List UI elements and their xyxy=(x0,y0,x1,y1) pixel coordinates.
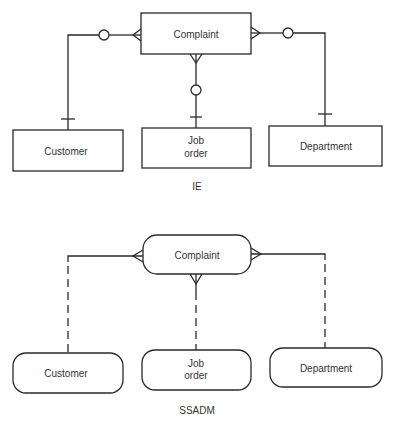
ssadm-department-label: Department xyxy=(300,363,352,374)
ssadm-relationship-joborder-complaint xyxy=(190,274,202,350)
ie-job-order-label-line1: Job xyxy=(188,135,205,146)
ie-caption: IE xyxy=(192,181,202,192)
ie-relationship-joborder-complaint xyxy=(190,54,202,128)
ssadm-entity-customer: Customer xyxy=(13,353,123,393)
ssadm-complaint-label: Complaint xyxy=(174,250,219,261)
optional-circle-icon xyxy=(99,30,109,40)
optional-circle-icon xyxy=(191,85,201,95)
ssadm-customer-label: Customer xyxy=(44,368,88,379)
ie-department-label: Department xyxy=(300,141,352,152)
ssadm-relationship-customer-complaint xyxy=(68,250,143,353)
ssadm-diagram: Complaint Customer Job or xyxy=(13,235,382,416)
ie-customer-label: Customer xyxy=(44,146,88,157)
ssadm-job-order-label-line2: order xyxy=(184,370,208,381)
ssadm-entity-complaint: Complaint xyxy=(143,235,251,274)
ssadm-entity-department: Department xyxy=(270,348,382,387)
ie-entity-customer: Customer xyxy=(13,130,123,171)
er-diagram-canvas: Complaint xyxy=(0,0,397,423)
ssadm-relationship-department-complaint xyxy=(251,248,325,348)
optional-circle-icon xyxy=(283,28,293,38)
ie-diagram: Complaint xyxy=(13,13,382,192)
ie-entity-complaint: Complaint xyxy=(141,13,251,54)
ie-relationship-department-complaint xyxy=(251,27,332,126)
ssadm-entity-job-order: Job order xyxy=(142,350,251,390)
ie-job-order-label-line2: order xyxy=(184,148,208,159)
ssadm-job-order-label-line1: Job xyxy=(188,358,205,369)
ie-entity-department: Department xyxy=(269,126,382,166)
ie-complaint-label: Complaint xyxy=(173,29,218,40)
ie-entity-job-order: Job order xyxy=(142,128,251,168)
ssadm-caption: SSADM xyxy=(179,405,215,416)
ie-relationship-customer-complaint xyxy=(61,29,141,130)
